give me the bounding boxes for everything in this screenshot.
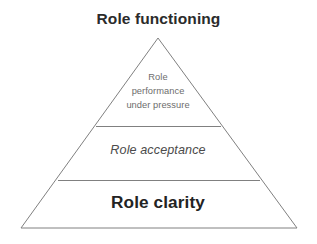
pyramid-tier-middle-label: Role acceptance xyxy=(49,142,267,158)
pyramid-tier-bottom-label: Role clarity xyxy=(29,192,287,213)
pyramid-tier-top-line-3: under pressure xyxy=(79,99,237,113)
pyramid-tier-top-line-2: performance xyxy=(79,85,237,99)
role-functioning-figure: Role functioning Role performance under … xyxy=(0,0,317,244)
pyramid-tier-top-line-1: Role xyxy=(79,71,237,85)
pyramid-tier-top-label: Role performance under pressure xyxy=(79,71,237,112)
